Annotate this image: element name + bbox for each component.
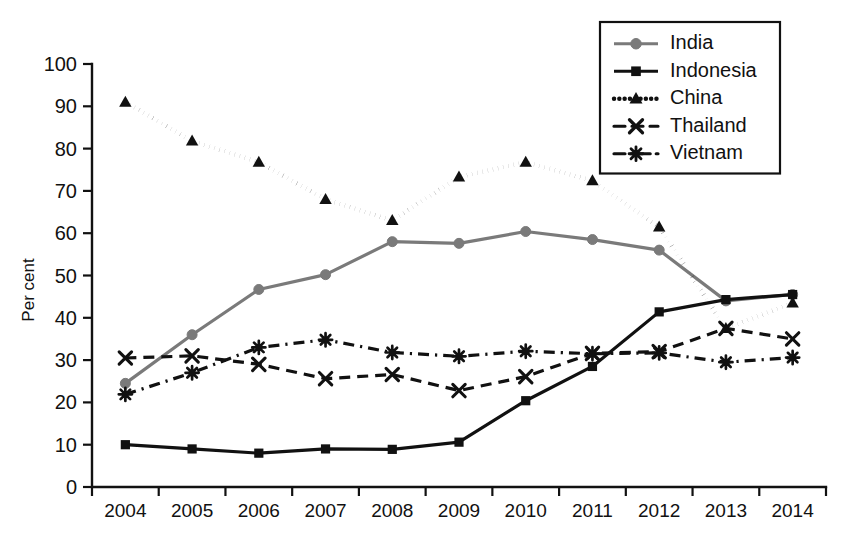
data-point-marker-circle (631, 39, 642, 50)
x-tick-label: 2007 (304, 500, 346, 521)
x-axis-ticks: 2004200520062007200820092010201120122013… (92, 487, 826, 521)
y-tick-label: 80 (55, 138, 77, 160)
data-point-marker-square (321, 444, 330, 453)
legend-label: Vietnam (670, 141, 743, 163)
y-tick-label: 100 (44, 53, 77, 75)
y-tick-label: 40 (55, 307, 77, 329)
data-point-marker-asterisk (519, 345, 532, 358)
data-point-marker-circle (521, 227, 531, 237)
data-point-marker-asterisk (629, 147, 643, 161)
legend-label: Indonesia (670, 59, 758, 81)
y-tick-label: 20 (55, 391, 77, 413)
y-tick-label: 90 (55, 95, 77, 117)
legend-label: Thailand (670, 114, 747, 136)
data-point-marker-triangle (520, 156, 532, 167)
data-point-marker-asterisk (319, 333, 332, 346)
chart-legend: IndiaIndonesiaChinaThailandVietnam (600, 22, 780, 174)
x-tick-label: 2012 (638, 500, 680, 521)
x-tick-label: 2014 (771, 500, 814, 521)
data-point-marker-square (521, 396, 530, 405)
x-tick-label: 2006 (238, 500, 280, 521)
data-point-marker-triangle (119, 96, 131, 107)
data-point-marker-circle (454, 238, 464, 248)
y-tick-label: 50 (55, 265, 77, 287)
data-point-marker-triangle (253, 156, 265, 167)
data-point-marker-square (388, 445, 397, 454)
y-axis-ticks: 0102030405060708090100 (44, 53, 92, 498)
y-tick-label: 30 (55, 349, 77, 371)
data-point-marker-asterisk (386, 346, 399, 359)
data-point-marker-asterisk (452, 350, 465, 363)
data-point-marker-circle (587, 235, 597, 245)
data-point-marker-square (588, 362, 597, 371)
x-tick-label: 2009 (438, 500, 480, 521)
data-point-marker-asterisk (786, 351, 799, 364)
data-point-marker-square (187, 444, 196, 453)
data-point-marker-circle (187, 330, 197, 340)
chart-container: 0102030405060708090100 20042005200620072… (0, 0, 859, 540)
x-tick-label: 2013 (705, 500, 747, 521)
data-point-marker-square (631, 66, 641, 76)
data-point-marker-circle (254, 284, 264, 294)
series-line (125, 340, 792, 395)
data-point-marker-circle (321, 270, 331, 280)
y-tick-label: 0 (66, 476, 77, 498)
data-point-marker-asterisk (653, 346, 666, 359)
x-tick-label: 2004 (104, 500, 147, 521)
line-chart: 0102030405060708090100 20042005200620072… (0, 0, 859, 540)
x-tick-label: 2010 (505, 500, 547, 521)
data-point-marker-asterisk (119, 388, 132, 401)
data-point-marker-asterisk (719, 356, 732, 369)
data-point-marker-square (721, 295, 730, 304)
data-point-marker-square (121, 440, 130, 449)
data-point-marker-triangle (653, 220, 665, 231)
data-point-marker-asterisk (252, 341, 265, 354)
y-axis-label: Per cent (19, 258, 38, 322)
x-tick-label: 2005 (171, 500, 213, 521)
data-point-marker-square (454, 438, 463, 447)
y-tick-label: 70 (55, 180, 77, 202)
data-point-marker-triangle (319, 193, 331, 204)
data-point-marker-circle (387, 237, 397, 247)
data-point-marker-asterisk (185, 366, 198, 379)
y-tick-label: 10 (55, 434, 77, 456)
data-point-marker-triangle (453, 171, 465, 182)
series-line (125, 295, 792, 454)
data-point-marker-square (655, 307, 664, 316)
data-point-marker-x (786, 333, 798, 345)
x-tick-label: 2011 (572, 500, 613, 521)
data-point-marker-asterisk (586, 347, 599, 360)
legend-label: India (670, 31, 714, 53)
data-point-marker-square (254, 449, 263, 458)
data-point-marker-triangle (586, 174, 598, 185)
data-point-marker-triangle (186, 135, 198, 146)
data-point-marker-triangle (386, 214, 398, 225)
x-tick-label: 2008 (371, 500, 413, 521)
data-point-marker-circle (654, 245, 664, 255)
legend-label: China (670, 86, 723, 108)
y-tick-label: 60 (55, 222, 77, 244)
